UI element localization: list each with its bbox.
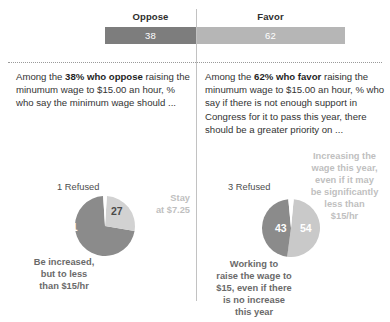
left-refused-label: 1 Refused (57, 181, 127, 193)
left-question-text: Among the 38% who oppose raising the min… (16, 70, 192, 110)
right-question-text: Among the 62% who favor raising the minu… (205, 70, 385, 136)
left-slice-value-71: 71 (66, 221, 78, 233)
right-question-highlight: 62% who favor (254, 71, 321, 82)
left-slice-label-stay: Stay at $7.25 (128, 192, 190, 216)
right-refused-label: 3 Refused (228, 181, 298, 193)
minimum-wage-infographic: Oppose Favor 38 62 Among the 38% who opp… (0, 0, 390, 322)
left-question-prefix: Among the (16, 71, 65, 82)
right-panel: Among the 62% who favor raising the minu… (196, 0, 390, 322)
left-slice-value-27: 27 (111, 205, 123, 217)
right-question-prefix: Among the (205, 71, 254, 82)
left-question-highlight: 38% who oppose (65, 71, 143, 82)
left-panel: Among the 38% who oppose raising the min… (0, 0, 196, 322)
right-slice-label-working: Working to raise the wage to $15, even i… (196, 258, 312, 318)
right-slice-value-54: 54 (300, 222, 312, 234)
right-slice-value-43: 43 (275, 222, 287, 234)
left-slice-label-be-increased: Be increased, but to less than $15/hr (12, 256, 116, 292)
left-pie-chart (75, 196, 135, 256)
